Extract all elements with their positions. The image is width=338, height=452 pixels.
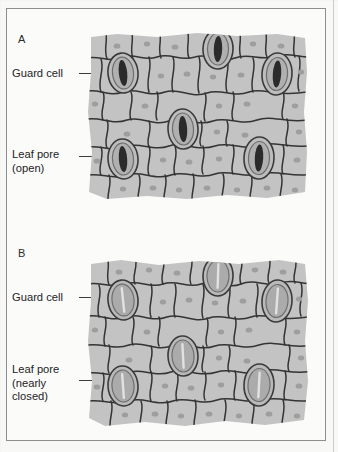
panel-a-epidermis-tissue [87,32,309,202]
page-edge-line [333,0,334,452]
panel-a-guard-cell-label: Guard cell [12,67,63,81]
panel-b-leaf-pore-label: Leaf pore (nearly closed) [12,363,59,404]
figure-frame: A Guard cell Leaf pore (open) [6,8,326,441]
panel-a: A Guard cell Leaf pore (open) [7,9,325,225]
panel-a-leaf-pore-label: Leaf pore (open) [12,148,59,175]
panel-b-guard-cell-label: Guard cell [12,291,63,305]
panel-b-letter: B [18,247,26,259]
panel-b-epidermis-tissue [87,259,309,429]
panel-a-letter: A [18,33,26,45]
panel-b: B Guard cell Leaf pore (nearly closed) [7,225,325,442]
